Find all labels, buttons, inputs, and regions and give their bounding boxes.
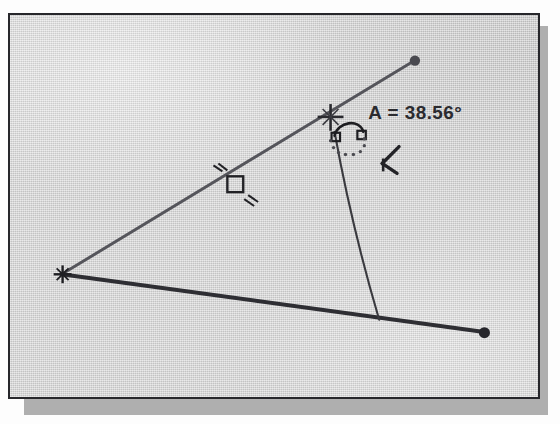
- scanned-page: A = 38.56°: [0, 0, 560, 424]
- halo-dot: [359, 150, 362, 153]
- lower-ray-line[interactable]: [62, 274, 483, 331]
- halo-dot: [332, 146, 335, 149]
- upper-ray-endpoint-dot[interactable]: [410, 55, 420, 65]
- halo-dot: [352, 153, 355, 156]
- snap-tick-lower-a: [248, 195, 258, 202]
- lower-ray-endpoint-dot[interactable]: [479, 327, 490, 338]
- snap-tick-lower-b: [244, 199, 254, 206]
- snap-square-icon: [227, 176, 243, 192]
- halo-dot: [344, 153, 347, 156]
- upper-ray-line[interactable]: [62, 62, 413, 275]
- angle-icon-upper-leg: [382, 147, 399, 164]
- lower-ray[interactable]: [62, 274, 490, 338]
- halo-dot: [363, 137, 366, 140]
- vertex-snap-marker[interactable]: [54, 265, 72, 283]
- halo-dot: [337, 151, 340, 154]
- drawing-canvas-frame[interactable]: A = 38.56°: [8, 13, 540, 399]
- halo-dot: [363, 144, 366, 147]
- angle-measurement-label[interactable]: A = 38.56°: [368, 102, 462, 123]
- protractor-angle-icon[interactable]: [382, 147, 399, 174]
- drawing-surface[interactable]: A = 38.56°: [10, 15, 538, 397]
- halo-dot: [329, 139, 332, 142]
- upper-ray[interactable]: [62, 55, 420, 274]
- angle-arc-path[interactable]: [335, 132, 380, 320]
- angle-arc[interactable]: [335, 132, 380, 320]
